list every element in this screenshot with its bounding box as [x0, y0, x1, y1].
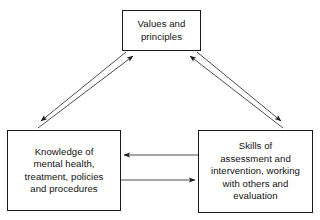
- connector-values-to-knowledge: [41, 52, 126, 121]
- connector-skills-to-values: [190, 56, 283, 128]
- node-skills-label: Skills of assessment and intervention, w…: [208, 140, 303, 202]
- node-knowledge-label: Knowledge of mental health, treatment, p…: [22, 146, 107, 196]
- node-values-and-principles: Values and principles: [122, 10, 201, 51]
- node-skills: Skills of assessment and intervention, w…: [198, 130, 313, 213]
- connector-knowledge-to-values: [38, 56, 133, 128]
- node-knowledge: Knowledge of mental health, treatment, p…: [7, 130, 121, 211]
- diagram-canvas: Values and principles Knowledge of menta…: [0, 0, 320, 220]
- connector-values-to-skills: [197, 52, 281, 121]
- node-values-label: Values and principles: [135, 18, 189, 43]
